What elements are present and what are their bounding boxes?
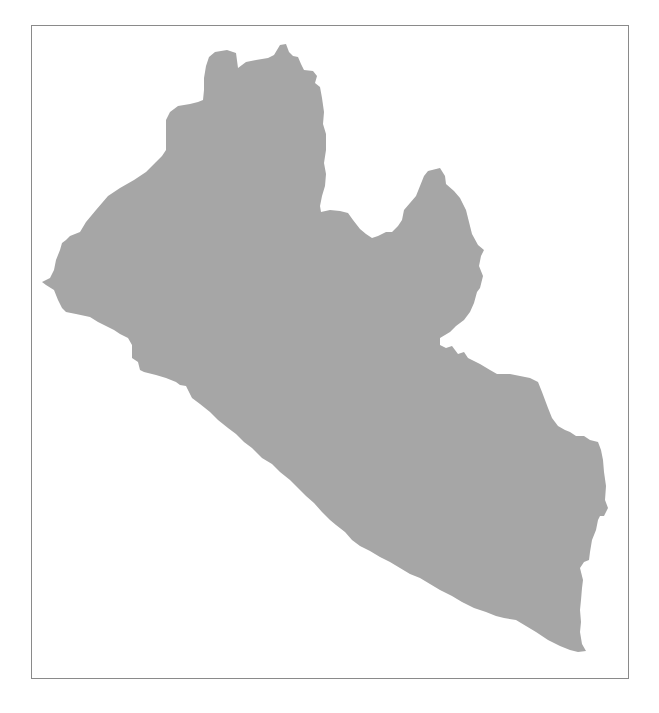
map-canvas — [0, 0, 659, 713]
country-shape-liberia — [42, 44, 608, 652]
